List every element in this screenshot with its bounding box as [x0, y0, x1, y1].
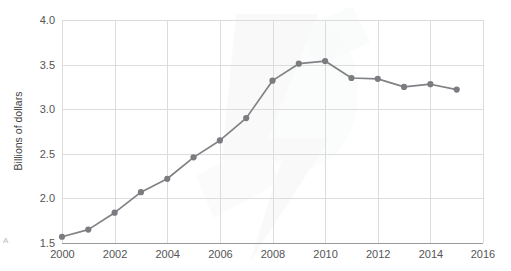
x-tick-label: 2000 — [50, 248, 74, 260]
y-tick-label: 3.5 — [40, 59, 55, 71]
x-tick-label: 2008 — [261, 248, 285, 260]
y-tick-label: 2.5 — [40, 148, 55, 160]
data-point[interactable] — [217, 137, 223, 143]
data-point[interactable] — [269, 78, 275, 84]
x-tick-label: 2004 — [155, 248, 179, 260]
x-tick-label: 2016 — [471, 248, 495, 260]
data-point[interactable] — [243, 115, 249, 121]
data-point[interactable] — [322, 58, 328, 64]
x-tick-label: 2012 — [366, 248, 390, 260]
data-point[interactable] — [138, 189, 144, 195]
chart-container: 4.0 3.5 3.0 2.5 2.0 1.5 2000 2002 2004 2… — [0, 0, 511, 271]
y-tick-label: 3.0 — [40, 103, 55, 115]
x-tick-label: 2002 — [103, 248, 127, 260]
data-point[interactable] — [427, 81, 433, 87]
corner-mark: A — [3, 236, 9, 245]
watermark — [196, 6, 370, 262]
x-tick-label: 2006 — [208, 248, 232, 260]
y-tick-label: 4.0 — [40, 14, 55, 26]
data-point[interactable] — [401, 84, 407, 90]
data-point[interactable] — [296, 61, 302, 67]
data-point[interactable] — [375, 76, 381, 82]
x-tick-label: 2014 — [419, 248, 443, 260]
data-point[interactable] — [190, 154, 196, 160]
data-point[interactable] — [59, 234, 65, 240]
y-tick-labels: 4.0 3.5 3.0 2.5 2.0 1.5 — [40, 14, 55, 249]
data-point[interactable] — [348, 75, 354, 81]
data-point[interactable] — [85, 227, 91, 233]
y-axis-title: Billions of dollars — [12, 92, 24, 171]
y-tick-label: 2.0 — [40, 192, 55, 204]
line-chart: 4.0 3.5 3.0 2.5 2.0 1.5 2000 2002 2004 2… — [0, 0, 511, 271]
gridlines-vertical — [63, 20, 484, 243]
data-point[interactable] — [164, 176, 170, 182]
data-point[interactable] — [112, 210, 118, 216]
x-tick-labels: 2000 2002 2004 2006 2008 2010 2012 2014 … — [50, 248, 495, 260]
data-point[interactable] — [454, 86, 460, 92]
x-tick-label: 2010 — [313, 248, 337, 260]
